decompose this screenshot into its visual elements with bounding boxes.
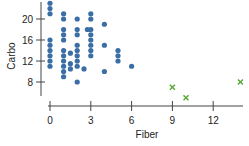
data-point [61, 69, 66, 74]
data-point [75, 27, 80, 32]
data-point [115, 58, 120, 63]
data-point [61, 11, 66, 16]
data-point [75, 64, 80, 69]
data-point [47, 53, 52, 58]
data-point [75, 32, 80, 37]
data-point [47, 64, 52, 69]
data-point [88, 27, 93, 32]
data-point [47, 43, 52, 48]
data-point [61, 48, 66, 53]
data-point [68, 51, 73, 56]
data-point [68, 61, 73, 66]
x-tick-label: 3 [88, 115, 94, 126]
data-point [102, 22, 107, 27]
data-point [75, 48, 80, 53]
data-point [61, 58, 66, 63]
data-point [88, 16, 93, 21]
data-point [88, 48, 93, 53]
data-point [75, 16, 80, 21]
data-point [47, 11, 52, 16]
x-axis: 036912 [47, 101, 243, 126]
y-axis: 8121620 [22, 2, 45, 96]
x-tick-label: 12 [208, 115, 220, 126]
data-point [75, 43, 80, 48]
y-axis-title: Carbo [6, 42, 17, 70]
data-point [47, 1, 52, 6]
data-point [61, 16, 66, 21]
x-tick-label: 0 [47, 115, 53, 126]
data-point [88, 37, 93, 42]
data-point [47, 48, 52, 53]
data-point [102, 69, 107, 74]
data-point [115, 48, 120, 53]
data-points [47, 1, 243, 101]
data-point [47, 58, 52, 63]
data-point [61, 53, 66, 58]
y-tick-label: 12 [22, 56, 34, 67]
data-point [61, 27, 66, 32]
data-point [47, 6, 52, 11]
data-point [61, 37, 66, 42]
data-point [75, 79, 80, 84]
outlier-x-marker [238, 80, 243, 85]
data-point [75, 53, 80, 58]
x-tick-label: 9 [170, 115, 176, 126]
scatter-plot: 8121620 036912 Carbo Fiber [0, 0, 249, 146]
data-point [115, 53, 120, 58]
data-point [81, 66, 86, 71]
data-point [102, 43, 107, 48]
y-tick-label: 20 [22, 14, 34, 25]
outlier-x-marker [170, 85, 175, 90]
data-point [88, 11, 93, 16]
y-tick-label: 8 [27, 77, 33, 88]
data-point [88, 43, 93, 48]
data-point [61, 32, 66, 37]
data-point [47, 37, 52, 42]
x-axis-title: Fiber [136, 129, 159, 140]
data-point [61, 64, 66, 69]
outlier-x-marker [184, 95, 189, 100]
data-point [75, 58, 80, 63]
y-tick-label: 16 [22, 35, 34, 46]
x-tick-label: 6 [129, 115, 135, 126]
data-point [88, 53, 93, 58]
data-point [88, 32, 93, 37]
data-point [61, 74, 66, 79]
data-point [129, 64, 134, 69]
data-point [68, 66, 73, 71]
